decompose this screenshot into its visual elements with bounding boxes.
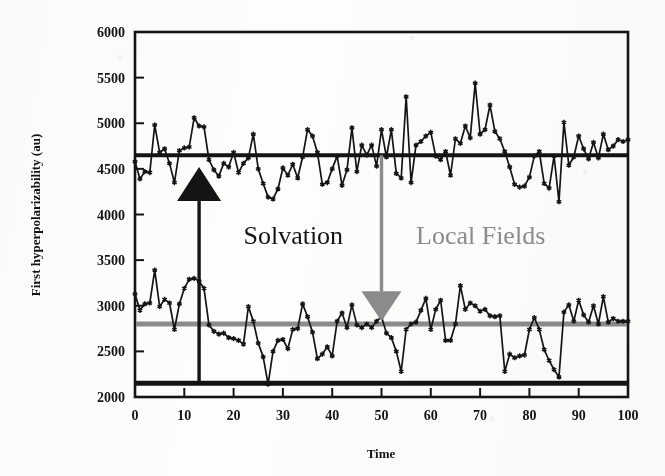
y-tick-label: 4000 [97, 208, 125, 223]
x-tick-label: 70 [473, 408, 487, 423]
x-tick-label: 40 [325, 408, 339, 423]
x-tick-label: 30 [276, 408, 290, 423]
y-axis-tick-labels: 200025003000350040004500500055006000 [97, 25, 125, 405]
y-tick-label: 4500 [97, 162, 125, 177]
x-axis-tick-labels: 0102030405060708090100 [132, 408, 639, 423]
annotation-label: Local Fields [416, 221, 545, 250]
y-tick-label: 5000 [97, 116, 125, 131]
y-tick-label: 2500 [97, 344, 125, 359]
x-tick-label: 80 [522, 408, 536, 423]
y-tick-label: 6000 [97, 25, 125, 40]
x-tick-label: 50 [375, 408, 389, 423]
x-tick-label: 10 [177, 408, 191, 423]
x-tick-label: 0 [132, 408, 139, 423]
local-fields-arrow: Local Fields [362, 155, 546, 321]
y-tick-label: 3500 [97, 253, 125, 268]
y-tick-label: 2000 [97, 390, 125, 405]
hyperpolarizability-time-series-chart: 200025003000350040004500500055006000 010… [0, 0, 665, 476]
x-axis-title: Time [367, 446, 396, 461]
y-axis-title: First hyperpolarizability (au) [28, 134, 43, 297]
x-tick-label: 100 [618, 408, 639, 423]
arrow-head [362, 291, 402, 321]
x-tick-label: 60 [424, 408, 438, 423]
y-tick-label: 3000 [97, 299, 125, 314]
y-tick-label: 5500 [97, 71, 125, 86]
x-tick-label: 20 [227, 408, 241, 423]
annotation-label: Solvation [243, 221, 343, 250]
figure-canvas: 200025003000350040004500500055006000 010… [0, 0, 665, 476]
solvation-arrow: Solvation [177, 167, 343, 383]
annotation-arrows: SolvationLocal Fields [177, 155, 545, 383]
x-tick-label: 90 [572, 408, 586, 423]
